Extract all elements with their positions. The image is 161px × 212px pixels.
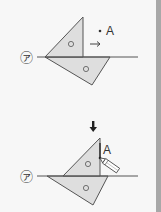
pencil-icon [98,156,119,173]
scrollbar-edge [156,0,161,212]
point-a-label: A [103,144,111,156]
step2-figure [37,138,138,205]
right-arrow-icon [90,42,100,47]
line-a-label: ㋐ [20,51,33,64]
lower-set-square [47,176,108,205]
down-arrow-icon [90,121,98,132]
step1-figure [37,17,138,85]
lower-set-square [45,57,110,85]
line-a-label: ㋐ [20,170,33,183]
point-a-label: A [106,25,114,37]
upper-set-square [63,138,100,176]
upper-set-square [45,17,83,57]
point-a-dot [99,30,102,33]
